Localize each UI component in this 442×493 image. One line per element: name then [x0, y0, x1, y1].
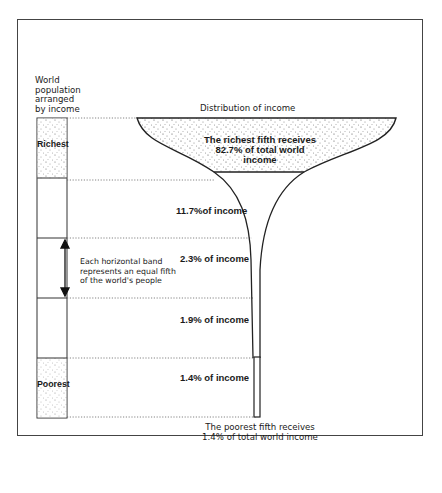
band-label-2: 11.7%of income: [176, 206, 247, 216]
band-label-5: 1.4% of income: [180, 373, 249, 383]
poorest-label: Poorest: [37, 380, 67, 390]
income-funnel-diagram: [0, 0, 442, 493]
band-note: Each horizontal band represents an equal…: [80, 257, 176, 286]
band-label-4: 1.9% of income: [180, 315, 249, 325]
band-height-arrow: [61, 240, 69, 296]
poorest-callout: The poorest fifth receives 1.4% of total…: [190, 423, 330, 442]
band-label-3: 2.3% of income: [180, 254, 249, 264]
poorest-income-bar: [254, 357, 260, 417]
left-heading: World population arranged by income: [35, 76, 81, 114]
richest-label: Richest: [37, 140, 67, 150]
richest-callout: The richest fifth receives 82.7% of tota…: [190, 135, 330, 165]
right-heading: Distribution of income: [200, 104, 295, 114]
